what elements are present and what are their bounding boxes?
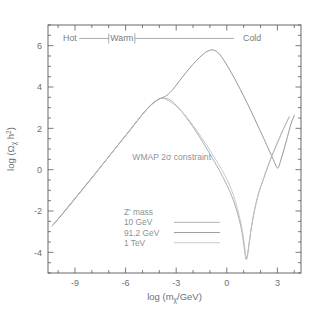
y-tick-label: -2 [34, 206, 42, 216]
wmap-constraint-annotation: WMAP 2σ constraint [132, 152, 211, 162]
regime-label-cold: Cold [243, 33, 261, 43]
regime-label-warm: Warm [110, 33, 133, 43]
chart-canvas: -9-6-303-4-20246log (mχ/GeV)log (Ωχ h2)H… [0, 0, 318, 317]
y-tick-label: 6 [37, 41, 42, 51]
x-axis-title: log (mχ/GeV) [147, 291, 202, 304]
x-tick-label: -9 [71, 278, 79, 288]
x-tick-label: 0 [224, 278, 229, 288]
legend-entry-label-1: 91.2 GeV [124, 228, 160, 238]
regime-label-hot: Hot [63, 33, 77, 43]
y-tick-label: 4 [37, 82, 42, 92]
regime-bracket: HotWarmCold [63, 33, 261, 43]
y-tick-label: 2 [37, 124, 42, 134]
legend: Z' mass10 GeV91.2 GeV1 TeV [124, 207, 220, 248]
series-line-1-tev [52, 98, 289, 259]
figure-container: -9-6-303-4-20246log (mχ/GeV)log (Ωχ h2)H… [0, 0, 318, 317]
x-tick-label: 3 [275, 278, 280, 288]
legend-title: Z' mass [124, 207, 153, 217]
y-tick-label: -4 [34, 248, 42, 258]
series-line-91-2-gev [52, 50, 294, 226]
y-tick-label: 0 [37, 165, 42, 175]
legend-entry-label-0: 10 GeV [124, 217, 153, 227]
y-axis-title: log (Ωχ h2) [5, 127, 18, 171]
plot-frame [48, 25, 301, 273]
x-tick-label: -6 [122, 278, 130, 288]
x-tick-label: -3 [172, 278, 180, 288]
axis-ticks [48, 25, 301, 273]
legend-entry-label-2: 1 TeV [124, 238, 146, 248]
series-line-10-gev [52, 98, 289, 260]
